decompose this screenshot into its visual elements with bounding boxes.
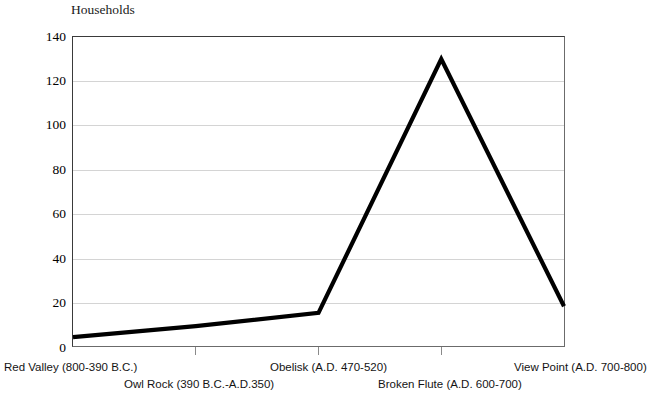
y-tick-label: 120 bbox=[20, 74, 66, 88]
y-tick-label: 60 bbox=[20, 207, 66, 221]
x-axis-tick bbox=[318, 347, 319, 355]
chart-y-axis-title: Households bbox=[71, 3, 135, 17]
x-axis-label-broken-flute: Broken Flute (A.D. 600-700) bbox=[378, 379, 522, 391]
x-axis-label-view-point: View Point (A.D. 700-800) bbox=[514, 362, 647, 374]
y-tick-label: 100 bbox=[20, 118, 66, 132]
y-tick-label: 40 bbox=[20, 252, 66, 266]
x-axis-tick bbox=[195, 347, 196, 355]
series-line-households bbox=[73, 37, 564, 346]
x-axis-tick bbox=[441, 347, 442, 355]
y-tick-label: 20 bbox=[20, 296, 66, 310]
y-tick-label: 80 bbox=[20, 163, 66, 177]
x-axis-label-owl-rock: Owl Rock (390 B.C.-A.D.350) bbox=[124, 379, 274, 391]
line-chart: Households 140 120 100 80 60 40 20 0 Red… bbox=[0, 0, 657, 402]
x-axis-label-obelisk: Obelisk (A.D. 470-520) bbox=[270, 362, 387, 374]
plot-area bbox=[72, 36, 565, 347]
y-axis-tick-labels: 140 120 100 80 60 40 20 0 bbox=[18, 0, 66, 402]
y-tick-label: 0 bbox=[20, 341, 66, 355]
y-tick-label: 140 bbox=[20, 30, 66, 44]
x-axis-label-red-valley: Red Valley (800-390 B.C.) bbox=[4, 362, 137, 374]
